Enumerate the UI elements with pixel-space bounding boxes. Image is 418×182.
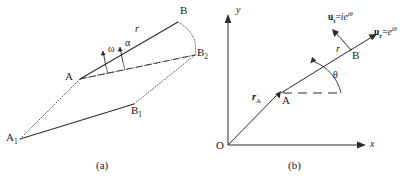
- point-label-a1: A1: [6, 132, 18, 146]
- point-label-b2: B2: [197, 47, 208, 61]
- omega-arrow-head: [101, 51, 106, 55]
- unit-vector-label-u-t: ut=ieiθ: [328, 11, 353, 25]
- length-label-r-panel-b: r: [336, 44, 340, 54]
- length-label-r-panel-a: r: [135, 24, 139, 34]
- unit-vector-label-u-r: ur=eiθ: [374, 26, 397, 40]
- solid-segment-a-b: [80, 22, 178, 79]
- omega-tail-tick: [107, 67, 108, 73]
- dotted-arc-b-to-b2: [178, 22, 196, 55]
- figure-container: A1 A B B1 B2 r ω α (a) y x O rA A B r θ …: [0, 0, 418, 182]
- origin-label: O: [216, 140, 224, 151]
- y-axis-label: y: [236, 5, 240, 15]
- alpha-tail-tick: [124, 63, 125, 69]
- point-label-b1: B1: [131, 105, 142, 119]
- dotted-b1-to-b2: [134, 55, 195, 104]
- point-label-b: B: [180, 5, 187, 16]
- point-label-a-panel-b: A: [282, 95, 290, 106]
- caption-panel-a: (a): [96, 160, 108, 171]
- theta-label: θ: [333, 70, 338, 80]
- x-axis-label: x: [370, 139, 374, 149]
- vector-r-a-arrowhead: [275, 91, 281, 99]
- point-label-a: A: [65, 71, 73, 82]
- panel-a-graphics: [20, 22, 196, 139]
- x-axis-arrowhead: [357, 142, 366, 149]
- caption-panel-b: (b): [288, 160, 301, 171]
- omega-label: ω: [108, 44, 115, 54]
- alpha-arrow-head: [118, 47, 123, 51]
- vector-label-r-a: rA: [252, 92, 261, 105]
- segment-a-to-b: [281, 49, 352, 93]
- panel-b-graphics: [225, 14, 377, 148]
- figure-vector-graphics: [0, 0, 418, 182]
- point-label-b-panel-b: B: [352, 50, 359, 61]
- y-axis-arrowhead: [225, 14, 232, 23]
- alpha-label: α: [125, 38, 130, 48]
